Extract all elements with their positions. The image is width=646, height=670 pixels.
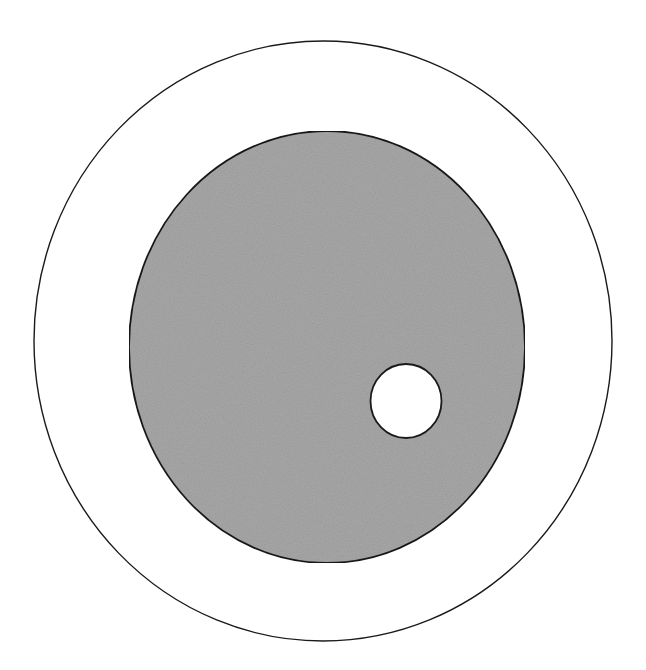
small-white-circle [371, 364, 442, 438]
diagram-canvas [0, 0, 646, 670]
inner-gray-ellipse [129, 131, 525, 563]
